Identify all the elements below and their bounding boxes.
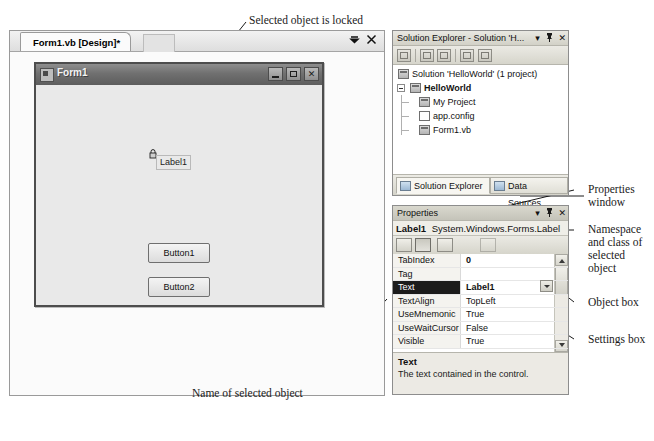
table-row[interactable]: Visible True	[393, 335, 568, 349]
properties-page-icon[interactable]	[437, 238, 453, 252]
toolbar-separator	[455, 49, 456, 62]
solution-explorer-panel: Solution Explorer - Solution 'H... ▾ ✕ S…	[392, 30, 569, 196]
chevron-down-icon[interactable]: ▾	[535, 208, 540, 218]
properties-title: Properties	[397, 208, 438, 218]
minimize-button[interactable]	[268, 67, 283, 81]
table-row[interactable]: TabIndex 0	[393, 254, 568, 268]
solution-explorer-window-controls: ▾ ✕	[532, 31, 566, 46]
table-row[interactable]: UseWaitCursor False	[393, 322, 568, 336]
settings-box[interactable]: TabIndex 0 Tag Text Label1 TextAlign Top…	[393, 254, 568, 353]
chevron-down-icon[interactable]: ▾	[535, 33, 540, 43]
data-sources-icon	[494, 181, 505, 191]
close-icon[interactable]	[366, 34, 377, 47]
property-pages-icon[interactable]	[480, 238, 496, 252]
winform-titlebar: Form1 ✕	[36, 64, 322, 85]
tree-item-my-project[interactable]: My Project	[393, 95, 568, 109]
project-icon	[410, 83, 421, 93]
tab-form1-design[interactable]: Form1.vb [Design]*	[20, 32, 131, 51]
solution-explorer-icon	[400, 181, 411, 191]
tree-item-app-config[interactable]: app.config	[393, 109, 568, 123]
properties-window-controls: ▾ ✕	[532, 206, 566, 221]
property-description-pane: Text The text contained in the control.	[393, 353, 568, 394]
annotation-locked: Selected object is locked	[249, 14, 363, 27]
designer-tabstrip: Form1.vb [Design]*	[10, 31, 384, 52]
winform-title: Form1	[57, 67, 88, 78]
form-file-icon	[419, 125, 430, 135]
form-icon	[40, 68, 54, 82]
designer-pane: Form1.vb [Design]* Form1 ✕ Label1 Bu	[9, 30, 385, 396]
view-code-icon[interactable]	[460, 49, 474, 62]
annotation-namespace-class: Namespace and class of selected object	[588, 223, 642, 275]
winform-designer-surface[interactable]: Form1 ✕ Label1 Button1 Button2	[34, 62, 324, 307]
annotation-settings-box: Settings box	[588, 333, 645, 346]
solution-explorer-tree[interactable]: Solution 'HelloWorld' (1 project) HelloW…	[393, 65, 568, 175]
tree-connector	[402, 130, 409, 131]
close-icon[interactable]: ✕	[558, 33, 566, 43]
tree-item-project[interactable]: HelloWorld	[393, 81, 568, 95]
annotation-object-box: Object box	[588, 296, 639, 309]
object-box[interactable]: Label1 System.Windows.Forms.Label	[393, 221, 568, 236]
solution-explorer-toolbar	[393, 46, 568, 65]
form-label-label1[interactable]: Label1	[156, 155, 191, 170]
form-button-button2[interactable]: Button2	[148, 277, 210, 297]
tree-item-form1-vb[interactable]: Form1.vb	[393, 123, 568, 137]
pin-icon[interactable]	[546, 208, 556, 218]
table-row[interactable]: UseMnemonic True	[393, 308, 568, 322]
show-all-files-icon[interactable]	[420, 49, 434, 62]
form-button-button1[interactable]: Button1	[148, 243, 210, 263]
tree-connector	[402, 116, 409, 117]
solution-explorer-titlebar: Solution Explorer - Solution 'H... ▾ ✕	[393, 31, 568, 46]
properties-panel: Properties ▾ ✕ Label1 System.Windows.For…	[392, 205, 569, 395]
annotation-name-of-selected-object: Name of selected object	[192, 387, 303, 400]
close-button[interactable]: ✕	[304, 67, 319, 81]
properties-titlebar: Properties ▾ ✕	[393, 206, 568, 221]
categorized-icon[interactable]	[396, 238, 412, 252]
close-icon[interactable]: ✕	[558, 208, 566, 218]
property-description-title: Text	[398, 356, 563, 367]
chevron-down-icon[interactable]	[540, 280, 553, 292]
solution-explorer-dock-tabs: Solution Explorer Data Sources	[393, 174, 568, 195]
refresh-icon[interactable]	[437, 49, 451, 62]
chevron-down-icon[interactable]	[349, 34, 360, 47]
winform-canvas[interactable]: Label1 Button1 Button2	[36, 85, 322, 305]
dock-tab-solution-explorer[interactable]: Solution Explorer	[396, 177, 490, 194]
folder-icon	[419, 97, 430, 107]
expander-icon[interactable]	[397, 84, 405, 92]
properties-toolbar	[393, 236, 568, 255]
properties-icon[interactable]	[397, 49, 411, 62]
config-file-icon	[419, 111, 430, 121]
annotation-properties-window: Properties window	[588, 183, 635, 209]
pin-icon[interactable]	[546, 33, 556, 43]
events-icon[interactable]	[456, 238, 472, 252]
solution-explorer-title: Solution Explorer - Solution 'H...	[397, 33, 524, 43]
table-row[interactable]: TextAlign TopLeft	[393, 295, 568, 309]
maximize-button[interactable]	[286, 67, 301, 81]
lock-icon	[149, 145, 157, 155]
object-box-name: Label1	[396, 223, 426, 234]
tree-connector	[402, 102, 409, 103]
alphabetical-icon[interactable]	[415, 238, 431, 252]
solution-icon	[398, 69, 409, 79]
table-row[interactable]: Tag	[393, 268, 568, 282]
tree-item-solution[interactable]: Solution 'HelloWorld' (1 project)	[393, 67, 568, 81]
dock-tab-data-sources[interactable]: Data Sources	[490, 177, 568, 194]
view-designer-icon[interactable]	[478, 49, 492, 62]
tab-inactive-stub[interactable]	[143, 34, 175, 52]
property-description-text: The text contained in the control.	[398, 369, 563, 380]
toolbar-separator	[415, 49, 416, 62]
object-box-class: System.Windows.Forms.Label	[432, 223, 560, 234]
